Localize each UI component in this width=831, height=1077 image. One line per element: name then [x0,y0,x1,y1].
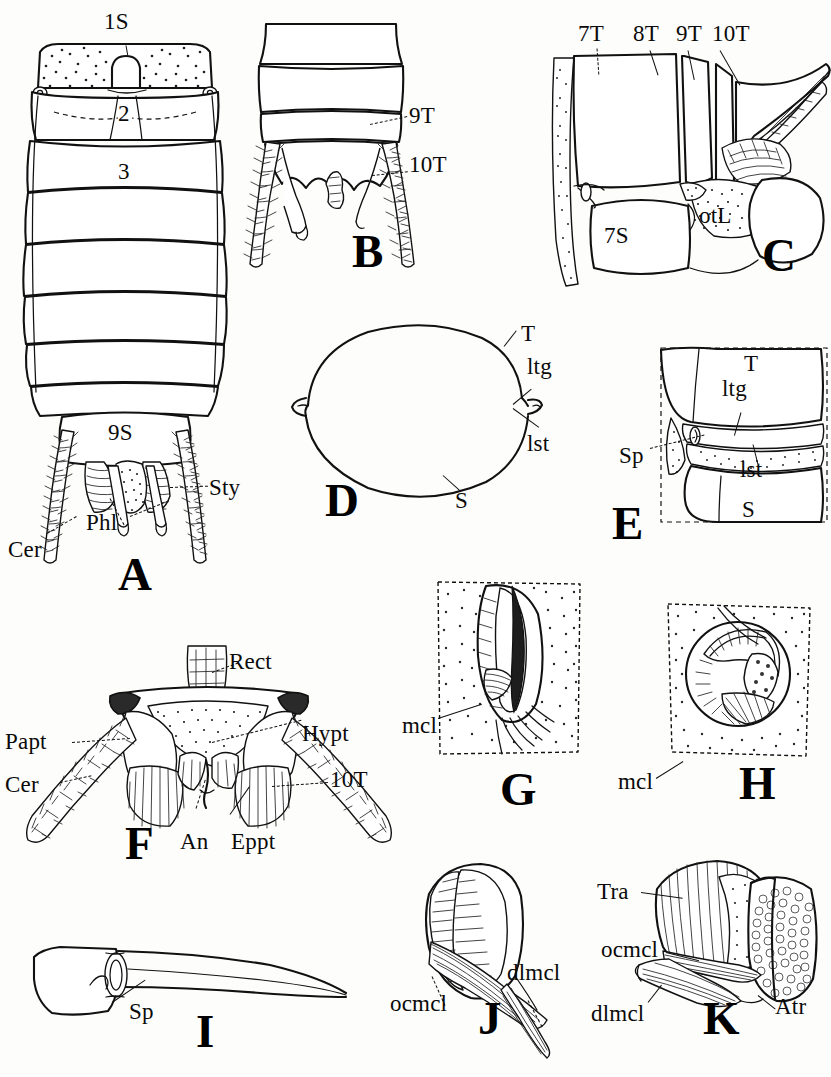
figure-g-drawing [430,578,590,768]
label-a-phl: Phl [86,511,117,534]
figure-letter-d: D [325,477,359,524]
figure-letter-e: E [612,500,643,547]
figure-f-drawing [20,640,400,870]
illustration-plate: 1S 2 3 9S Sty Phl Cer A [0,0,831,1077]
label-b-10t: 10T [409,153,447,176]
label-b-9t: 9T [409,104,435,127]
label-a-sty: Sty [209,476,240,499]
figure-letter-f: F [125,820,154,867]
figure-letter-a: A [118,551,152,598]
label-c-8t: 8T [633,22,659,45]
label-c-7t: 7T [578,22,604,45]
label-a-3: 3 [118,160,130,183]
label-g-mcl: mcl [402,714,437,737]
label-a-1s: 1S [104,10,129,33]
label-a-9s: 9S [108,421,133,444]
label-j-dlmcl: dlmcl [507,961,560,984]
label-d-t: T [521,322,535,345]
label-c-10t: 10T [712,22,750,45]
label-f-rect: Rect [229,650,272,673]
label-k-tra: Tra [597,880,629,903]
label-d-lst: lst [527,432,549,455]
label-k-dlmcl: dlmcl [591,1002,644,1025]
figure-h-drawing [660,598,820,768]
label-f-10t: 10T [330,768,368,791]
figure-i-drawing [20,935,350,1045]
label-k-ocmcl: ocmcl [601,938,658,961]
label-e-s: S [742,498,755,521]
label-k-atr: Atr [775,995,806,1018]
label-f-papt: Papt [5,730,47,753]
label-a-2: 2 [118,102,130,125]
label-d-ltg: ltg [527,355,552,378]
label-h-mcl: mcl [618,770,653,793]
figure-letter-j: J [478,995,502,1042]
label-f-an: An [180,830,209,853]
figure-letter-i: I [196,1008,214,1055]
label-j-ocmcl: ocmcl [390,992,447,1015]
label-f-cer: Cer [5,773,39,796]
label-e-lst: lst [740,458,762,481]
figure-letter-h: H [739,760,776,807]
label-e-t: T [744,352,758,375]
label-f-hypt: Hypt [302,722,349,745]
label-i-sp: Sp [129,1000,154,1023]
label-c-otl: otL [699,204,732,227]
label-d-s: S [455,489,468,512]
label-c-7s: 7S [604,224,629,247]
figure-letter-k: K [703,995,740,1042]
label-e-sp: Sp [619,444,644,467]
label-e-ltg: ltg [722,377,747,400]
figure-letter-c: C [762,232,796,279]
figure-b-drawing [230,20,440,270]
label-f-eppt: Eppt [231,830,275,853]
figure-letter-g: G [500,766,537,813]
label-a-cer: Cer [8,538,42,561]
label-c-9t: 9T [676,22,702,45]
figure-letter-b: B [352,228,383,275]
